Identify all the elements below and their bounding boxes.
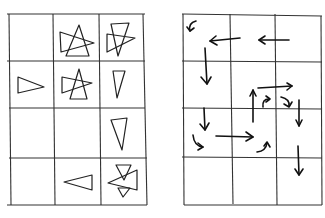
triangle-right-r1c0 <box>18 77 44 93</box>
arrow-right-r2c1 <box>216 132 253 141</box>
overlapping-triangles-r0c1 <box>60 25 94 56</box>
arrow-right-r1c2 <box>258 83 292 90</box>
diagram-canvas <box>0 0 325 218</box>
arrow-down-r1c0 <box>201 48 211 84</box>
arrows <box>187 21 303 175</box>
arrow-grid <box>182 14 322 205</box>
triangle-shapes <box>18 23 137 197</box>
overlapping-triangles-r3c2 <box>108 165 137 197</box>
arrow-down-r2c0 <box>200 108 209 130</box>
arrow-left-r0c2 <box>259 36 289 44</box>
triangle-left-r3c1 <box>64 175 92 190</box>
curved-arrow-up-r1c2 <box>263 96 270 107</box>
triangle-down-r1c2 <box>113 71 125 98</box>
arrow-down-r2c2 <box>296 100 302 126</box>
curved-arrow-r0c0 <box>187 21 196 31</box>
overlapping-triangles-r0c2 <box>107 23 135 56</box>
curved-arrow-r2c1 <box>257 142 270 152</box>
arrow-left-r0c1 <box>210 36 240 45</box>
arrow-up-r1c1 <box>250 90 256 122</box>
overlapping-triangles-r1c1 <box>62 69 92 99</box>
curved-arrow-down-r1c2 <box>281 97 292 107</box>
arrow-down-r3c2 <box>295 146 303 175</box>
curved-arrow-r2c0 <box>193 135 203 150</box>
triangle-down-r2c2 <box>111 118 127 150</box>
